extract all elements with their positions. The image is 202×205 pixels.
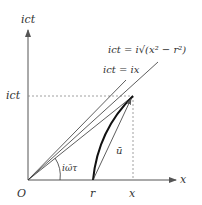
angle-label: iω̄τ xyxy=(62,164,77,173)
diagram-canvas xyxy=(0,0,202,205)
vector-u xyxy=(93,99,131,180)
hyperbola-equation: ict = i√(x² − r²) xyxy=(108,45,186,55)
origin-label: O xyxy=(17,188,26,199)
x-axis-label: x xyxy=(180,174,186,185)
vector-u-label: ū xyxy=(116,146,122,156)
hyperbola-line xyxy=(28,62,158,180)
x-tick-label: x xyxy=(129,188,135,199)
angle-arc xyxy=(55,158,60,180)
r-label: r xyxy=(90,188,95,199)
ict-tick-label: ict xyxy=(6,90,20,101)
light-line-equation: ict = ix xyxy=(103,65,139,75)
origin-to-point xyxy=(28,96,133,180)
y-axis-label: ict xyxy=(21,14,35,25)
